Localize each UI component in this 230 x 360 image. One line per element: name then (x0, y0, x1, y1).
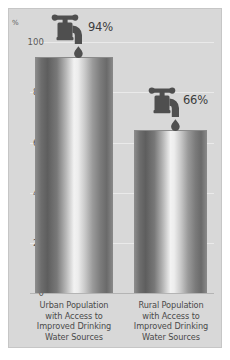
category-label-rural-line-3: Improved Drinking (119, 321, 223, 332)
category-label-urban: Urban Population with Access to Improved… (22, 300, 126, 342)
value-label-urban: 94% (88, 22, 113, 34)
category-label-rural-line-1: Rural Population (119, 300, 223, 311)
axis-baseline (30, 293, 214, 294)
value-label-rural: 66% (183, 95, 208, 107)
faucet-icon-rural (145, 86, 185, 134)
category-label-rural-line-2: with Access to (119, 311, 223, 322)
category-label-urban-line-2: with Access to (22, 311, 126, 322)
category-label-rural: Rural Population with Access to Improved… (119, 300, 223, 342)
y-tick-label-100: 100 (18, 38, 44, 47)
y-axis-unit-label: % (12, 20, 19, 27)
chart-figure: % 100 80 60 40 20 0 (0, 0, 230, 360)
category-label-rural-line-4: Water Sources (119, 332, 223, 343)
category-label-urban-line-4: Water Sources (22, 332, 126, 343)
bar-rural (134, 130, 207, 293)
category-label-urban-line-1: Urban Population (22, 300, 126, 311)
faucet-icon-urban (48, 13, 88, 61)
category-label-urban-line-3: Improved Drinking (22, 321, 126, 332)
bar-urban (35, 57, 113, 293)
